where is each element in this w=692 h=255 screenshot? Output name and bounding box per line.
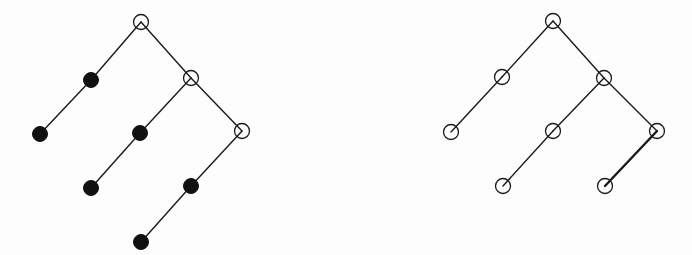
- tree-edge: [141, 22, 191, 78]
- tree-edge: [553, 78, 604, 131]
- filled-node-icon: [84, 73, 99, 88]
- filled-node-icon: [84, 181, 99, 196]
- tree-edge: [91, 22, 141, 80]
- diagram-canvas: [0, 0, 692, 255]
- filled-node-icon: [184, 179, 199, 194]
- tree-edge: [604, 78, 657, 131]
- filled-node-icon: [134, 235, 149, 250]
- right-tree-hollow-nodes: [444, 14, 665, 194]
- tree-diagrams: [0, 0, 692, 255]
- tree-edge: [140, 78, 191, 133]
- tree-edge: [553, 21, 604, 78]
- tree-edge: [451, 77, 502, 132]
- tree-edge: [191, 78, 242, 131]
- tree-edge: [503, 131, 553, 186]
- tree-edge: [141, 186, 191, 242]
- filled-node-icon: [33, 127, 48, 142]
- tree-edge: [91, 133, 140, 188]
- filled-node-icon: [133, 126, 148, 141]
- tree-edge: [502, 21, 553, 77]
- left-tree-filled-leaves: [33, 15, 250, 250]
- tree-edge: [191, 131, 242, 186]
- tree-edge: [605, 131, 657, 186]
- tree-edge: [40, 80, 91, 134]
